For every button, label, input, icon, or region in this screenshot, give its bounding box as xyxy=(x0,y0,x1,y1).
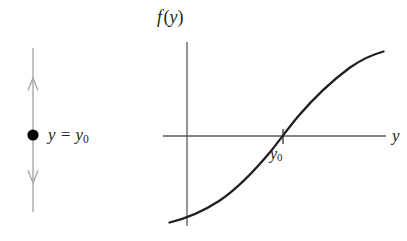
axes-group xyxy=(163,42,386,226)
fy-paren-close: ) xyxy=(178,7,184,27)
fy-y: y xyxy=(170,7,178,27)
sigmoid-curve xyxy=(170,52,384,223)
vertical-axis-label: f (y) xyxy=(157,8,184,26)
phase-line-label: y = y0 xyxy=(48,126,89,145)
phase-line-label-text: y = y xyxy=(48,125,83,144)
figure-canvas: f (y) y y = y0 y0 xyxy=(0,0,407,241)
phase-line-label-subscript: 0 xyxy=(83,133,89,146)
phase-line-group xyxy=(27,48,38,212)
root-label: y0 xyxy=(270,146,283,163)
figure-graphics xyxy=(0,0,407,241)
equilibrium-dot xyxy=(27,129,38,140)
fy-paren-open: ( xyxy=(162,7,170,27)
horizontal-axis-label: y xyxy=(392,127,400,144)
root-label-subscript: 0 xyxy=(277,151,282,163)
